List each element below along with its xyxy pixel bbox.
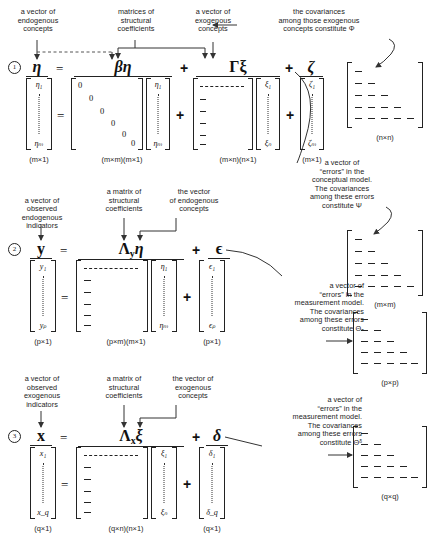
- eq3-delta-first: δ₁: [199, 449, 225, 458]
- eq2-lambda-y-matrix: [76, 260, 148, 332]
- label-exogenous-concepts: a vector of exogenous concepts: [182, 8, 244, 34]
- eq1-beta-eta-first: η₁: [146, 80, 170, 89]
- eq1-beta-zero-1: 0: [89, 93, 93, 103]
- eq1-zeta-last: ζₘ: [300, 139, 324, 148]
- equation-number-2: 2: [8, 243, 21, 256]
- eq3-delta-vector: δ₁ δ_q: [199, 447, 225, 519]
- label-delta-errors: a vector of “errors” in the measurement …: [240, 396, 362, 448]
- eq1-matrix-plus-2: +: [286, 107, 294, 123]
- eq2-y-vector: y₁ yₚ: [30, 260, 56, 332]
- eq1-term-gamma-xi: Γξ: [196, 58, 280, 77]
- phi-dimension: (n×n): [352, 133, 418, 142]
- eq2-eta-first: η₁: [151, 262, 177, 271]
- eq1-zeta-vector: ζ₁ ζₘ: [300, 78, 324, 150]
- label-epsilon-errors: a vector of “errors” in the measurement …: [246, 282, 364, 334]
- figure-canvas: a vector of endogenous concepts matrices…: [0, 0, 437, 556]
- label-observed-endogenous-indicators-text: a vector of observed endogenous indicato…: [22, 196, 63, 231]
- eq2-equals-matrix: =: [61, 290, 68, 306]
- eq1-xi-last: ξₙ: [256, 139, 280, 148]
- label-endogenous-concepts: a vector of endogenous concepts: [6, 8, 70, 34]
- eq2-term-lambda-y-eta: Λyη: [78, 240, 184, 260]
- eq1-term-beta-eta: βη: [74, 58, 172, 77]
- theta-epsilon-covariance-matrix: [353, 312, 427, 374]
- eq1-lhs-eta: η: [26, 58, 48, 77]
- eq2-eta-vector: η₁ ηₘ: [151, 260, 177, 332]
- eq3-xi-vector: ξ₁ ξₙ: [151, 447, 177, 519]
- eq1-plus-2: +: [285, 60, 293, 76]
- eq2-lambda: Λ: [118, 240, 129, 257]
- label-eq2-coefficients: a matrix of structural coefficients: [92, 188, 156, 214]
- eq2-epsilon-vector: ϵ₁ ϵₚ: [199, 260, 225, 332]
- eq1-eta-vector: η₁ ηₘ: [26, 78, 52, 150]
- eq3-matrix-plus: +: [183, 476, 191, 492]
- eq3-xi-last: ξₙ: [151, 508, 177, 517]
- eq1-beta-matrix: 0 0 0 0 0 0: [71, 78, 143, 150]
- eq3-dim-lambda: (q×n)(n×1): [76, 524, 176, 533]
- eq1-plus-1: +: [180, 60, 188, 76]
- eq1-beta-zero-0: 0: [78, 80, 82, 90]
- eq2-lhs-y: y: [30, 240, 52, 259]
- eq1-beta-eta-vector: η₁ ηₘ: [146, 78, 170, 150]
- label-structural-coefficient-matrices: matrices of structural coefficients: [104, 8, 168, 34]
- eq3-plus: +: [192, 429, 200, 445]
- label-exogenous-concepts-vector: the vector of exogenous concepts: [156, 375, 230, 401]
- eq3-x-last: x_q: [30, 508, 56, 517]
- eq3-x-vector: x₁ x_q: [30, 447, 56, 519]
- eq1-term-zeta: ζ: [299, 58, 323, 77]
- eq1-zeta-first: ζ₁: [300, 80, 324, 89]
- phi-covariance-matrix: [347, 62, 423, 128]
- eq1-dim-gamma: (m×n)(n×1): [192, 155, 284, 164]
- eq3-xi-first: ξ₁: [151, 449, 177, 458]
- eq3-x-first: x₁: [30, 449, 56, 458]
- eq1-beta-zero-5: 0: [131, 138, 135, 148]
- eq2-eps-first: ϵ₁: [199, 262, 225, 271]
- eq3-xi: ξ: [136, 427, 143, 444]
- eq1-beta-zero-3: 0: [111, 118, 115, 128]
- eq2-y-last: yₚ: [30, 321, 56, 330]
- eq2-dim-lambda: (p×m)(m×1): [76, 337, 176, 346]
- eq2-y-first: y₁: [30, 262, 56, 271]
- label-zeta-errors: a vector of “errors” in the conceptual m…: [286, 159, 398, 211]
- eq2-eta: η: [135, 240, 144, 257]
- eq2-eps-last: ϵₚ: [199, 321, 225, 330]
- eq1-beta-zero-2: 0: [100, 106, 104, 116]
- eq3-equals-matrix: =: [61, 477, 68, 493]
- eq3-lambda-x-matrix: [76, 447, 148, 519]
- eq2-eta-last: ηₘ: [151, 321, 177, 330]
- eq2-matrix-plus: +: [183, 289, 191, 305]
- equation-number-3: 3: [8, 430, 21, 443]
- eq1-matrix-plus-1: +: [176, 107, 184, 123]
- eq2-dim-epsilon: (p×1): [188, 337, 236, 346]
- eq1-xi-vector: ξ₁ ξₙ: [256, 78, 280, 150]
- label-eq3-coefficients: a matrix of structural coefficients: [92, 375, 156, 401]
- eq1-dim-lhs: (m×1): [14, 155, 64, 164]
- eq2-equals: =: [60, 243, 67, 259]
- eq3-delta-last: δ_q: [199, 508, 225, 517]
- eq3-term-delta: δ: [206, 427, 228, 446]
- eq1-equals: =: [56, 61, 63, 77]
- label-endogenous-concepts-vector: the vector of endogenous concepts: [158, 188, 230, 214]
- eq1-eta-last: ηₘ: [26, 139, 52, 148]
- equation-number-1: 1: [8, 61, 21, 74]
- theta-delta-dimension: (q×q): [357, 492, 423, 501]
- label-observed-endogenous-indicators: a vector of observed endogenous indicato…: [10, 188, 74, 231]
- label-observed-exogenous-indicators: a vector of observed exogenous indicator…: [10, 375, 74, 409]
- theta-epsilon-dimension: (p×p): [357, 378, 423, 387]
- eq2-plus: +: [192, 242, 200, 258]
- eq1-gamma-matrix: [193, 78, 253, 150]
- eq3-equals: =: [60, 430, 67, 446]
- eq1-beta-eta-last: ηₘ: [146, 139, 170, 148]
- eq3-dim-delta: (q×1): [188, 524, 236, 533]
- eq2-term-epsilon: ϵ: [208, 240, 230, 259]
- label-phi-covariances: the covariances among those exogenous co…: [252, 8, 386, 34]
- eq1-xi-first: ξ₁: [256, 80, 280, 89]
- eq1-eta-first: η₁: [26, 80, 52, 89]
- eq3-dim-lhs: (q×1): [18, 524, 68, 533]
- eq3-lhs-x: x: [30, 427, 52, 446]
- eq1-beta-zero-4: 0: [122, 129, 126, 139]
- eq1-dim-beta: (m×m)(m×1): [72, 155, 172, 164]
- eq3-lambda: Λ: [119, 427, 130, 444]
- eq3-term-lambda-x-xi: Λxξ: [78, 427, 184, 447]
- theta-delta-covariance-matrix: [353, 426, 427, 488]
- eq1-equals-matrix: =: [57, 108, 64, 124]
